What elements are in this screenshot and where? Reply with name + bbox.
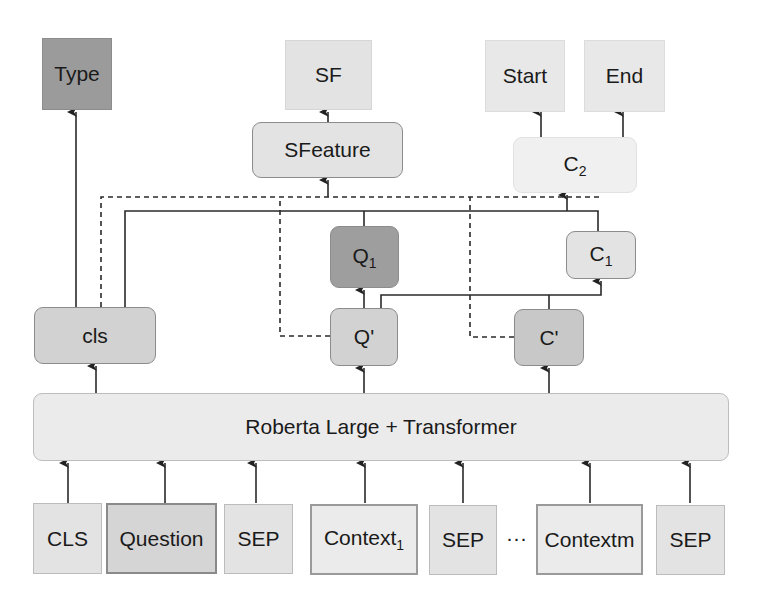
cls-module: cls bbox=[34, 307, 156, 364]
end-label: End bbox=[606, 64, 643, 88]
type-label: Type bbox=[54, 62, 100, 86]
roberta-encoder-block: Roberta Large + Transformer bbox=[33, 393, 729, 461]
q1-label: Q1 bbox=[352, 244, 376, 271]
type-output-box: Type bbox=[42, 38, 112, 110]
c2-module: C2 bbox=[513, 137, 637, 193]
start-output-box: Start bbox=[485, 40, 565, 112]
input-token-sep-3: SEP bbox=[656, 505, 725, 575]
input-token-sep-2: SEP bbox=[429, 505, 497, 575]
q-prime-module: Q' bbox=[330, 308, 398, 366]
c-prime-module: C' bbox=[514, 309, 584, 366]
ellipsis: ··· bbox=[506, 526, 527, 550]
cls-label: cls bbox=[82, 324, 108, 348]
sf-output-box: SF bbox=[285, 40, 372, 110]
sfeature-label: SFeature bbox=[284, 138, 370, 162]
encoder-label: Roberta Large + Transformer bbox=[245, 415, 516, 439]
input-token-context-1: Context1 bbox=[310, 504, 418, 575]
c-prime-label: C' bbox=[539, 326, 558, 350]
input-token-sep-1: SEP bbox=[224, 504, 293, 574]
input-token-question: Question bbox=[106, 503, 217, 574]
q-prime-label: Q' bbox=[354, 325, 374, 349]
c1-module: C1 bbox=[566, 231, 636, 279]
c2-label: C2 bbox=[564, 152, 587, 179]
input-token-cls: CLS bbox=[33, 503, 102, 574]
end-output-box: End bbox=[584, 40, 665, 112]
sfeature-module: SFeature bbox=[252, 122, 403, 178]
sf-label: SF bbox=[315, 63, 342, 87]
input-token-context-m: Contextm bbox=[536, 504, 643, 575]
start-label: Start bbox=[503, 64, 547, 88]
q1-module: Q1 bbox=[330, 226, 399, 288]
c1-label: C1 bbox=[590, 242, 613, 269]
